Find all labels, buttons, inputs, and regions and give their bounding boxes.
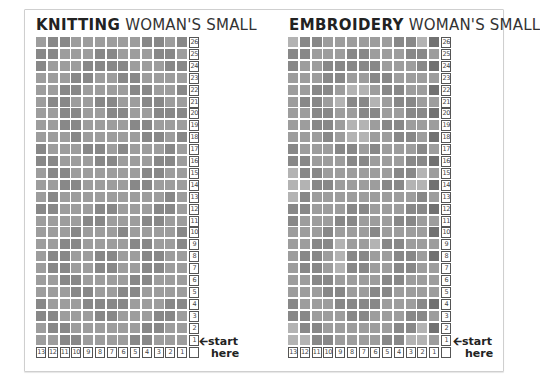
grid-cell [48,227,58,237]
grid-cell [347,287,357,297]
column-number-label: 7 [359,347,369,358]
grid-cell [323,37,333,47]
grid-cell [300,73,310,83]
grid-cell [382,287,392,297]
grid-cell [429,49,439,59]
grid-cell [323,180,333,190]
grid-cell [394,204,404,214]
start-here-marker: 🡨start here [199,336,239,360]
grid-cell [95,227,105,237]
row-number-label: 22 [189,85,199,96]
grid-cell [142,180,152,190]
grid-cell [370,37,380,47]
grid-cell [312,120,322,130]
grid-cell [429,97,439,107]
grid-cell [429,85,439,95]
grid-cell [165,180,175,190]
grid-cell [118,335,128,345]
grid-cell [359,287,369,297]
grid-cell [288,227,298,237]
grid-cell [107,49,117,59]
grid-cell [417,227,427,237]
grid-cell [154,61,164,71]
grid-cell [335,275,345,285]
grid-cell [107,311,117,321]
grid-cell [429,180,439,190]
grid-cell [323,120,333,130]
grid-cell [288,144,298,154]
grid-cell [417,73,427,83]
grid-cell [300,37,310,47]
grid-cell [359,144,369,154]
grid-cell [406,144,416,154]
grid-cell [165,120,175,130]
grid-cell [154,97,164,107]
grid-cell [394,120,404,130]
row-number-label: 11 [189,216,199,227]
row-number-label: 19 [189,120,199,131]
grid-cell [142,61,152,71]
grid-cell [130,216,140,226]
row-number-label: 5 [189,287,199,298]
grid-cell [335,132,345,142]
grid-cell [323,216,333,226]
column-number-label: 1 [429,347,439,358]
grid-cell [130,132,140,142]
grid-cell [154,204,164,214]
row-number-label: 20 [189,108,199,119]
grid-cell [154,49,164,59]
column-number-label: 1 [177,347,187,358]
column-number-label: 2 [417,347,427,358]
grid-cell [347,144,357,154]
grid-cell [323,299,333,309]
grid-cell [107,287,117,297]
grid-cell [323,275,333,285]
grid-cell [312,73,322,83]
grid-cell [335,227,345,237]
grid-cell [370,192,380,202]
grid-cell [83,49,93,59]
grid-cell [417,108,427,118]
grid-cell [165,311,175,321]
grid-cell [95,323,105,333]
grid-cell [417,251,427,261]
grid-cell [154,251,164,261]
grid-cell [347,180,357,190]
grid-cell [60,156,70,166]
grid-cell [312,287,322,297]
grid-cell [394,323,404,333]
grid-cell [177,168,187,178]
grid-cell [36,49,46,59]
column-number-label: 3 [154,347,164,358]
row-number-label: 10 [441,227,451,238]
grid-cell [406,108,416,118]
grid-cell [359,97,369,107]
grid-cell [406,73,416,83]
grid-cell [118,180,128,190]
grid-cell [177,299,187,309]
grid-cell [154,168,164,178]
grid-cell [165,37,175,47]
grid-cell [36,108,46,118]
grid-cell [417,275,427,285]
grid-cell [83,61,93,71]
grid-cell [60,61,70,71]
grid-cell [312,97,322,107]
grid-cell [95,180,105,190]
grid-cell [36,263,46,273]
grid-cell [429,263,439,273]
grid-cell [60,192,70,202]
grid-cell [359,108,369,118]
grid-cell [165,239,175,249]
row-number-label: 16 [441,156,451,167]
grid-cell [300,61,310,71]
grid-cell [382,251,392,261]
grid-cell [142,275,152,285]
grid-cell [417,204,427,214]
grid-cell [71,239,81,249]
grid-cell [142,287,152,297]
grid-cell [312,251,322,261]
grid-cell [288,180,298,190]
grid-cell [60,323,70,333]
grid-cell [406,156,416,166]
